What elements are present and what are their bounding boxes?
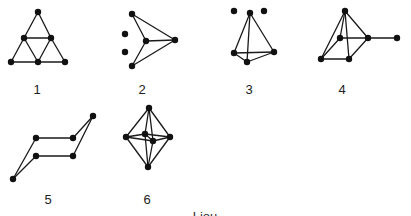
figure-caption: Liou <box>193 210 218 216</box>
caption-clip: Liou <box>0 0 411 216</box>
